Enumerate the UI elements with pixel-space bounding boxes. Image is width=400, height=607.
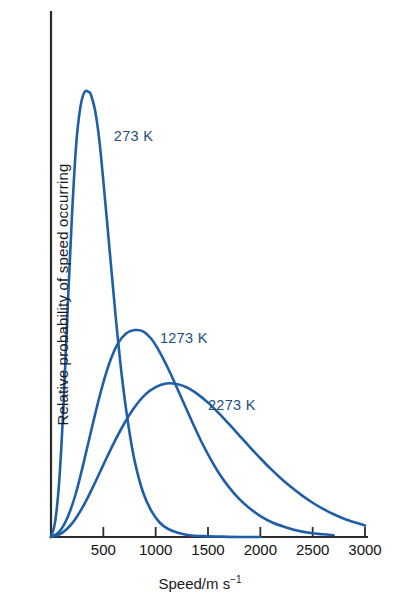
x-axis-tick-label: 3000 (348, 541, 381, 558)
distribution-curves (51, 91, 365, 537)
x-axis-tick-label: 2000 (244, 541, 277, 558)
curve-1273-k (51, 330, 334, 537)
maxwell-boltzmann-speed-distribution-chart: Relative probability of speed occurring … (0, 0, 400, 607)
x-axis-label-text: Speed/m s (158, 575, 230, 592)
x-axis-tick-label: 500 (91, 541, 116, 558)
y-axis-label: Relative probability of speed occurring (54, 85, 71, 505)
x-axis-tick-label: 2500 (296, 541, 329, 558)
curve-label-1273-k: 1273 K (160, 330, 208, 346)
x-axis-tick-label: 1500 (191, 541, 224, 558)
x-axis-label: Speed/m s−1 (0, 574, 400, 592)
x-axis-label-exponent: −1 (230, 574, 241, 585)
curve-label-273-k: 273 K (114, 128, 153, 144)
x-axis-tick-label: 1000 (139, 541, 172, 558)
curve-label-2273-k: 2273 K (208, 397, 256, 413)
